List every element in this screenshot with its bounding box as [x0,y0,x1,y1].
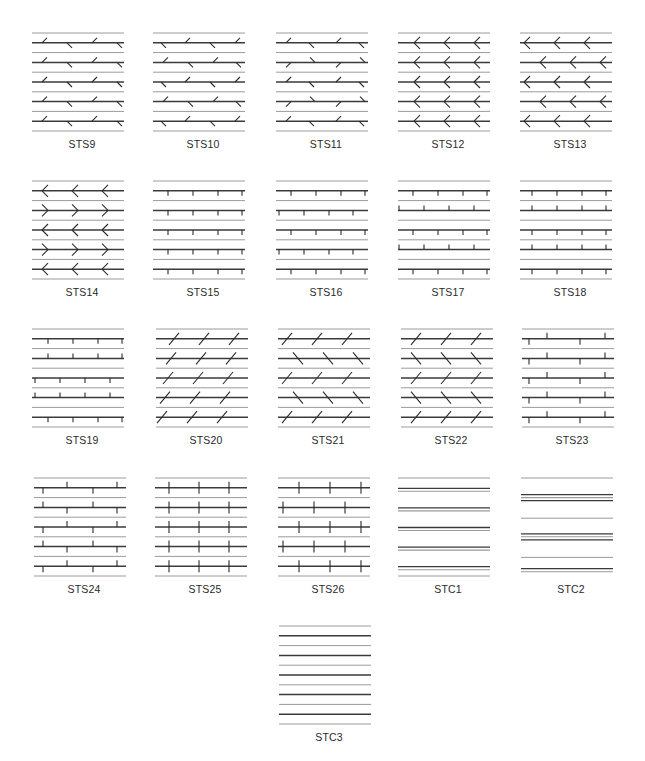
pattern-sts19-graphic [32,327,124,429]
stimulus-panel-sts16: STS16 [276,179,376,281]
stimulus-panel-sts19: STS19 [32,327,132,429]
pattern-sts18-graphic [520,179,612,281]
panel-label-sts10: STS10 [143,138,263,150]
pattern-sts10-graphic [153,31,245,133]
pattern-sts15-graphic [153,179,245,281]
panel-label-sts17: STS17 [388,286,508,298]
stimulus-panel-sts17: STS17 [398,179,498,281]
panel-label-sts13: STS13 [510,138,630,150]
panel-label-sts18: STS18 [510,286,630,298]
stimulus-panel-sts23: STS23 [522,327,622,429]
stimulus-panel-sts25: STS25 [155,476,255,578]
panel-label-sts20: STS20 [146,434,266,446]
stimulus-panel-sts10: STS10 [153,31,253,133]
panel-label-sts21: STS21 [268,434,388,446]
pattern-sts22-graphic [401,327,493,429]
stimulus-panel-sts11: STS11 [276,31,376,133]
panel-label-sts11: STS11 [266,138,386,150]
panel-label-sts15: STS15 [143,286,263,298]
pattern-sts21-graphic [278,327,370,429]
pattern-stc2-graphic [521,476,613,578]
pattern-sts16-graphic [276,179,368,281]
pattern-sts14-graphic [32,179,124,281]
stimulus-panel-sts21: STS21 [278,327,378,429]
stimulus-panel-sts26: STS26 [278,476,378,578]
stimulus-panel-sts20: STS20 [156,327,256,429]
panel-label-stc1: STC1 [388,583,508,595]
stimulus-panel-sts12: STS12 [398,31,498,133]
stimulus-panel-sts18: STS18 [520,179,620,281]
pattern-sts13-graphic [520,31,612,133]
pattern-stc3-graphic [279,624,371,726]
stimulus-panel-sts15: STS15 [153,179,253,281]
pattern-sts9-graphic [32,31,124,133]
pattern-sts25-graphic [155,476,247,578]
panel-label-sts19: STS19 [22,434,142,446]
pattern-sts24-graphic [34,476,126,578]
stimulus-panel-stc2: STC2 [521,476,621,578]
stimulus-panel-sts14: STS14 [32,179,132,281]
pattern-stc1-graphic [398,476,490,578]
panel-label-sts22: STS22 [391,434,511,446]
pattern-sts23-graphic [522,327,614,429]
stimulus-panel-sts13: STS13 [520,31,620,133]
panel-label-sts14: STS14 [22,286,142,298]
panel-label-sts24: STS24 [24,583,144,595]
panel-label-sts23: STS23 [512,434,632,446]
panel-label-sts12: STS12 [388,138,508,150]
stimulus-panel-stc3: STC3 [279,624,379,726]
pattern-sts26-graphic [278,476,370,578]
panel-label-sts26: STS26 [268,583,388,595]
pattern-sts12-graphic [398,31,490,133]
stimulus-panel-stc1: STC1 [398,476,498,578]
stimulus-panel-sts9: STS9 [32,31,132,133]
pattern-sts17-graphic [398,179,490,281]
stimulus-panel-sts24: STS24 [34,476,134,578]
pattern-sts11-graphic [276,31,368,133]
panel-label-stc3: STC3 [269,731,389,743]
stimulus-panel-sts22: STS22 [401,327,501,429]
pattern-sts20-graphic [156,327,248,429]
panel-label-sts25: STS25 [145,583,265,595]
panel-label-sts16: STS16 [266,286,386,298]
panel-label-sts9: STS9 [22,138,142,150]
panel-label-stc2: STC2 [511,583,631,595]
